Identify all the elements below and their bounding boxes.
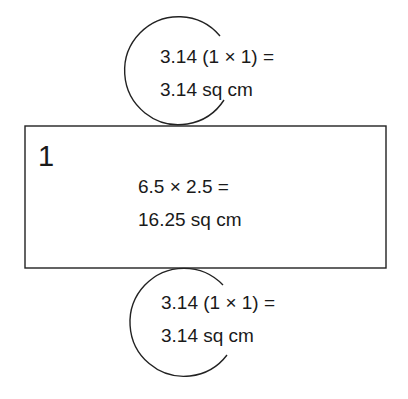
- rectangle-area: 16.25 sq cm: [138, 209, 242, 231]
- top-circle-formula: 3.14 (1 × 1) =: [160, 46, 274, 68]
- top-circle-area: 3.14 sq cm: [160, 79, 253, 101]
- rectangle-label: 1: [38, 141, 54, 171]
- rectangle-formula: 6.5 × 2.5 =: [138, 176, 229, 198]
- top-circle-arc: [125, 17, 224, 125]
- bottom-circle-formula: 3.14 (1 × 1) =: [161, 292, 275, 314]
- bottom-circle-arc: [130, 268, 227, 376]
- bottom-circle-area: 3.14 sq cm: [161, 325, 254, 347]
